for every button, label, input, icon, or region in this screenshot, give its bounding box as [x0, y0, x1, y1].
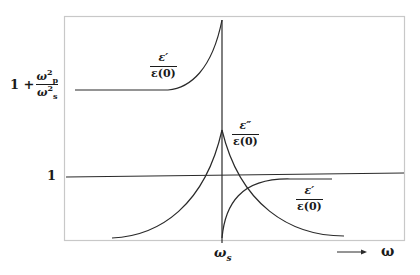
label-num: ε′ [303, 185, 317, 197]
label-eps-real-high: ε′ ε(0) [296, 185, 323, 213]
plot-canvas [0, 0, 420, 275]
y-label-lead: 1 + [10, 77, 34, 92]
den-sub: s [53, 91, 58, 101]
unity-line [66, 173, 404, 177]
y-label-plateau: 1 + ω2p ω2s [10, 70, 58, 99]
omega-sub: s [226, 253, 231, 263]
y-label-unity: 1 [47, 168, 56, 183]
omega-arrow-head [361, 250, 367, 255]
label-den: ε(0) [296, 201, 323, 213]
omega-base: ω [214, 245, 226, 260]
label-den: ε(0) [232, 136, 259, 148]
label-den: ε(0) [150, 68, 177, 80]
label-num: ε′ [157, 52, 171, 64]
num-omega: ω [36, 70, 46, 83]
eps-real-low-curve [75, 20, 222, 90]
label-num: ε″ [238, 120, 254, 132]
label-eps-real-low: ε′ ε(0) [150, 52, 177, 80]
label-eps-imag: ε″ ε(0) [232, 120, 259, 148]
x-axis-label-omega: ω [381, 243, 394, 259]
den-omega: ω [37, 86, 47, 99]
plasma-ratio-fraction: ω2p ω2s [36, 70, 58, 99]
x-label-resonance: ωs [214, 245, 231, 263]
eps-imag-curve-left [112, 130, 222, 238]
